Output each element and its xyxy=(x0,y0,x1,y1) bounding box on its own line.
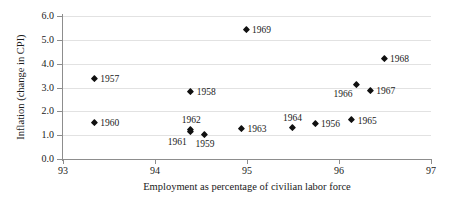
gridline xyxy=(63,40,431,41)
scatter-chart-figure: Inflation (change in CPI) 0.01.02.03.04.… xyxy=(0,0,452,206)
gridline xyxy=(63,111,431,112)
x-tick-mark xyxy=(339,159,340,164)
data-point-label: 1964 xyxy=(283,114,302,124)
x-tick-mark xyxy=(431,159,432,164)
data-point-label: 1961 xyxy=(168,138,187,148)
x-tick-label: 95 xyxy=(232,165,262,176)
diamond-marker xyxy=(243,26,250,33)
data-point-label: 1965 xyxy=(358,117,377,127)
diamond-marker xyxy=(353,81,360,88)
y-tick-label: 2.0 xyxy=(26,105,54,116)
diamond-marker xyxy=(348,116,355,123)
x-tick-label: 93 xyxy=(48,165,78,176)
diamond-marker xyxy=(201,131,208,138)
diamond-marker xyxy=(381,55,388,62)
diamond-marker xyxy=(91,119,98,126)
y-tick-label: 6.0 xyxy=(26,10,54,21)
data-point-label: 1958 xyxy=(197,88,216,98)
diamond-marker xyxy=(187,88,194,95)
gridline xyxy=(63,135,431,136)
diamond-marker xyxy=(91,75,98,82)
plot-area: 1957196019581962196119591969196319641956… xyxy=(63,16,431,159)
gridline xyxy=(63,16,431,17)
x-tick-mark xyxy=(63,159,64,164)
data-point-label: 1956 xyxy=(321,120,340,130)
y-tick-label: 0.0 xyxy=(26,153,54,164)
data-point-label: 1959 xyxy=(196,140,215,150)
data-point-label: 1968 xyxy=(390,55,409,65)
y-tick-label: 5.0 xyxy=(26,34,54,45)
data-point-label: 1967 xyxy=(376,87,395,97)
gridline xyxy=(63,64,431,65)
data-point-label: 1963 xyxy=(247,125,266,135)
x-tick-label: 97 xyxy=(416,165,446,176)
x-tick-label: 94 xyxy=(140,165,170,176)
data-point-label: 1960 xyxy=(100,119,119,129)
y-tick-label: 4.0 xyxy=(26,58,54,69)
data-point-label: 1962 xyxy=(182,116,201,126)
x-tick-mark xyxy=(247,159,248,164)
x-axis-title: Employment as percentage of civilian lab… xyxy=(63,181,431,192)
data-point-label: 1966 xyxy=(333,90,352,100)
y-tick-label: 1.0 xyxy=(26,129,54,140)
data-point-label: 1969 xyxy=(252,26,271,36)
x-tick-mark xyxy=(155,159,156,164)
diamond-marker xyxy=(312,120,319,127)
diamond-marker xyxy=(289,124,296,131)
y-tick-label: 3.0 xyxy=(26,82,54,93)
data-point-label: 1957 xyxy=(100,75,119,85)
diamond-marker xyxy=(238,125,245,132)
x-tick-label: 96 xyxy=(324,165,354,176)
